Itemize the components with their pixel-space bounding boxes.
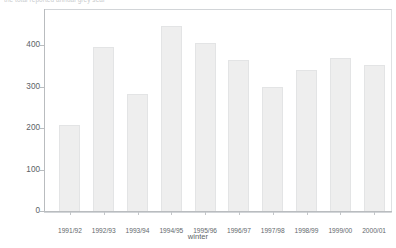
chart-figure: the total reported annual grey seal 0100… bbox=[0, 0, 396, 248]
y-axis-tick-label: 0 bbox=[0, 207, 40, 215]
bar bbox=[262, 87, 283, 212]
y-axis-tick-label: 100 bbox=[0, 166, 40, 174]
figure-caption: the total reported annual grey seal bbox=[4, 0, 244, 5]
x-axis-tick bbox=[340, 212, 341, 215]
x-axis-tick bbox=[104, 212, 105, 215]
y-axis-tick bbox=[40, 45, 44, 46]
x-axis-tick bbox=[205, 212, 206, 215]
x-axis-tick bbox=[239, 212, 240, 215]
bar bbox=[161, 26, 182, 211]
x-axis-tick bbox=[138, 212, 139, 215]
bar bbox=[127, 94, 148, 211]
y-axis-tick bbox=[40, 170, 44, 171]
y-axis-tick bbox=[40, 87, 44, 88]
bar bbox=[330, 58, 351, 211]
y-axis-tick-label: 200 bbox=[0, 124, 40, 132]
y-axis-tick bbox=[40, 128, 44, 129]
bar bbox=[228, 60, 249, 211]
y-axis-tick-label: 300 bbox=[0, 83, 40, 91]
x-axis-tick bbox=[70, 212, 71, 215]
bar bbox=[59, 125, 80, 211]
x-axis-tick bbox=[374, 212, 375, 215]
x-axis-tick bbox=[307, 212, 308, 215]
bar bbox=[195, 43, 216, 211]
y-axis-tick-label: 400 bbox=[0, 41, 40, 49]
bar bbox=[364, 65, 385, 211]
x-axis-tick bbox=[273, 212, 274, 215]
y-axis-tick bbox=[40, 211, 44, 212]
bar bbox=[296, 70, 317, 211]
x-axis-title: winter bbox=[0, 232, 396, 241]
y-axis-line bbox=[44, 9, 45, 212]
plot-area: 0100200300400 1991/921992/931993/941994/… bbox=[44, 9, 392, 212]
x-axis-tick bbox=[171, 212, 172, 215]
bar bbox=[93, 47, 114, 211]
